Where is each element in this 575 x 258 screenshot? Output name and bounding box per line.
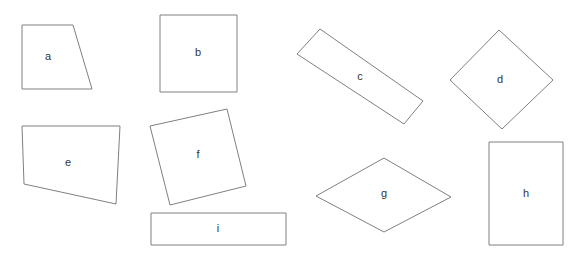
shape-e[interactable]: e [22, 126, 120, 204]
shape-outline-a[interactable] [22, 25, 92, 89]
shape-d[interactable]: d [450, 30, 553, 129]
shape-h[interactable]: h [489, 142, 563, 245]
shape-label-d: d [497, 73, 503, 85]
shape-f[interactable]: f [150, 109, 246, 205]
shape-label-i: i [217, 222, 219, 234]
shape-a[interactable]: a [22, 25, 92, 89]
shape-label-c: c [357, 70, 363, 82]
shapes-group: abcdefghi [22, 15, 563, 245]
shape-label-h: h [523, 187, 529, 199]
shape-label-a: a [45, 50, 52, 62]
shape-diagram-canvas: abcdefghi [0, 0, 575, 258]
shape-i[interactable]: i [151, 213, 286, 245]
shape-c[interactable]: c [297, 29, 423, 124]
shapes-svg: abcdefghi [0, 0, 575, 258]
shape-b[interactable]: b [160, 15, 237, 92]
shape-g[interactable]: g [316, 158, 451, 232]
shape-label-b: b [195, 46, 201, 58]
shape-label-e: e [65, 156, 71, 168]
shape-label-g: g [381, 187, 387, 199]
